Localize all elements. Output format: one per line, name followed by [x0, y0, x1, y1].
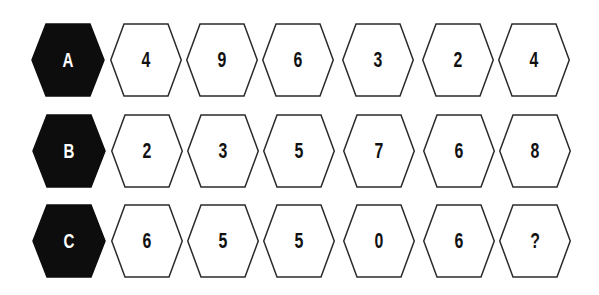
number-cell: 2	[422, 23, 494, 97]
cell-value: 5	[273, 114, 325, 188]
number-cell: 5	[187, 204, 259, 278]
number-cell: 8	[499, 114, 571, 188]
cell-value: 2	[121, 114, 173, 188]
number-cell: 3	[342, 23, 414, 97]
number-cell: 6	[423, 114, 495, 188]
row-c: C 6 5 5 0 6 ?	[0, 204, 599, 278]
cell-value: 3	[197, 114, 249, 188]
cell-value: 3	[352, 23, 404, 97]
number-cell: 9	[186, 23, 258, 97]
number-cell: 6	[262, 23, 334, 97]
cell-value: 6	[121, 204, 173, 278]
cell-value: 7	[353, 114, 405, 188]
cell-value: 0	[353, 204, 405, 278]
cell-value: 6	[433, 114, 485, 188]
row-label: C	[43, 204, 95, 278]
cell-value: 5	[273, 204, 325, 278]
cell-value: 8	[509, 114, 561, 188]
row-label-hexagon: C	[33, 204, 105, 278]
number-cell: 4	[498, 23, 570, 97]
hexagon-puzzle: A 4 9 6 3 2 4 B	[0, 0, 599, 295]
number-cell: 7	[343, 114, 415, 188]
cell-value: 6	[433, 204, 485, 278]
number-cell: 0	[343, 204, 415, 278]
row-label: A	[42, 23, 94, 97]
number-cell: 5	[263, 114, 335, 188]
row-label-hexagon: A	[32, 23, 104, 97]
row-b: B 2 3 5 7 6 8	[0, 114, 599, 188]
cell-value: 6	[272, 23, 324, 97]
number-cell: 2	[111, 114, 183, 188]
cell-value: 4	[508, 23, 560, 97]
number-cell: 4	[110, 23, 182, 97]
cell-value: 5	[197, 204, 249, 278]
question-mark: ?	[509, 204, 561, 278]
missing-number-cell: ?	[499, 204, 571, 278]
cell-value: 4	[120, 23, 172, 97]
number-cell: 6	[423, 204, 495, 278]
cell-value: 9	[196, 23, 248, 97]
row-label-hexagon: B	[33, 114, 105, 188]
number-cell: 6	[111, 204, 183, 278]
row-a: A 4 9 6 3 2 4	[0, 23, 599, 97]
number-cell: 5	[263, 204, 335, 278]
cell-value: 2	[432, 23, 484, 97]
row-label: B	[43, 114, 95, 188]
number-cell: 3	[187, 114, 259, 188]
